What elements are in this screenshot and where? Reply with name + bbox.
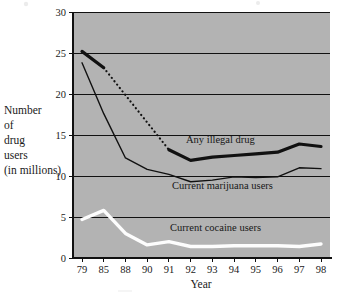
annotation-current-cocaine-users: Current cocaine users [170,222,261,233]
y-axis-title-line: (in millions) [4,164,61,177]
y-tick-label: 20 [56,89,67,100]
chart-figure: 051015202530 Any illegal drugCurrent mar… [0,0,344,299]
x-tick-label: 88 [120,264,131,275]
y-tick-label: 15 [56,130,67,141]
x-tick-label: 90 [142,264,153,275]
y-tick-label: 25 [56,48,67,59]
y-tick-label: 30 [56,7,67,18]
y-tick-label: 0 [61,253,66,264]
x-axis-title: Year [190,278,211,290]
y-axis-title-line: of [4,119,14,131]
y-axis-title-line: Number [4,104,42,116]
annotation-current-marijuana-users: Current marijuana users [172,180,273,191]
x-tick-label: 97 [294,264,305,275]
x-tick-label: 91 [164,264,175,275]
y-tick-label: 5 [61,212,66,223]
x-tick-label: 98 [316,264,327,275]
x-tick-label: 92 [185,264,196,275]
x-tick-label: 95 [251,264,262,275]
x-tick-label: 85 [98,264,109,275]
drug-users-line-chart: 051015202530 Any illegal drugCurrent mar… [0,0,344,299]
y-axis-title-line: users [4,149,28,161]
x-tick-label: 93 [207,264,218,275]
x-tick-label: 94 [229,264,240,275]
annotation-any-illegal-drug: Any illegal drug [186,134,256,145]
x-tick-label: 96 [272,264,283,275]
y-axis-title-line: drug [4,134,25,147]
x-tick-label: 79 [77,264,88,275]
